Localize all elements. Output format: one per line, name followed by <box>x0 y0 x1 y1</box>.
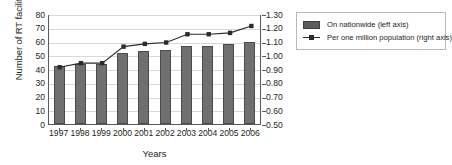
line-marker <box>121 44 125 48</box>
y-axis-right-ticks: 0.500.600.700.800.901.001.101.201.30 <box>266 15 298 125</box>
y-axis-right-tick-label: 0.80 <box>266 79 296 88</box>
line-marker-icon <box>303 34 320 42</box>
x-axis-ticks: 1997199819992000200120022003200420052006 <box>48 128 261 142</box>
y-axis-right-tickmark <box>262 29 266 30</box>
y-axis-left-tick-label: 60 <box>23 38 45 47</box>
y-axis-left-tick-label: 80 <box>23 11 45 20</box>
y-axis-right-tickmark <box>262 125 266 126</box>
x-axis-tickmark <box>123 128 124 131</box>
legend-label-line: Per one million population (right axis) <box>327 33 452 42</box>
x-axis-tickmark <box>80 128 81 131</box>
y-axis-right-tick-label: 0.90 <box>266 66 296 75</box>
y-axis-right-tick-label: 1.20 <box>266 24 296 33</box>
line-marker <box>249 24 253 28</box>
plot-area <box>48 15 261 125</box>
y-axis-left-tick-label: 30 <box>23 79 45 88</box>
y-axis-right-tick-label: 1.30 <box>266 11 296 20</box>
y-axis-right-tick-label: 0.60 <box>266 107 296 116</box>
x-axis-tickmark <box>229 128 230 131</box>
y-axis-right-tickmark <box>262 56 266 57</box>
y-axis-left-tick-label: 70 <box>23 24 45 33</box>
y-axis-right-tick-label: 0.50 <box>266 121 296 130</box>
x-axis-tickmark <box>165 128 166 131</box>
y-axis-right-tickmark <box>262 84 266 85</box>
line-marker <box>79 61 83 65</box>
y-axis-right-tick-label: 1.00 <box>266 52 296 61</box>
chart-figure: Number of RT facilities 0102030405060708… <box>0 0 452 165</box>
y-axis-right-tickmark <box>262 98 266 99</box>
chart-legend: On nationwide (left axis) Per one millio… <box>296 12 446 50</box>
line-marker <box>143 42 147 46</box>
x-axis-title: Years <box>48 148 261 159</box>
y-axis-left-ticks: 01020304050607080 <box>20 15 45 125</box>
x-axis-tickmark <box>101 128 102 131</box>
line-marker <box>164 40 168 44</box>
legend-label-bar: On nationwide (left axis) <box>327 20 408 29</box>
y-axis-left-tick-label: 40 <box>23 66 45 75</box>
y-axis-left-tick-label: 10 <box>23 107 45 116</box>
y-axis-right-tick-label: 0.70 <box>266 93 296 102</box>
line-marker <box>185 32 189 36</box>
y-axis-left-tick-label: 0 <box>23 121 45 130</box>
line-marker <box>100 61 104 65</box>
y-axis-left-tick-label: 50 <box>23 52 45 61</box>
y-axis-right-tickmark <box>262 70 266 71</box>
line-series <box>49 15 262 125</box>
y-axis-right-tick-label: 1.10 <box>266 38 296 47</box>
x-axis-tickmark <box>144 128 145 131</box>
y-axis-right-tickmark <box>262 15 266 16</box>
legend-item-line: Per one million population (right axis) <box>303 31 440 44</box>
line-marker <box>57 65 61 69</box>
line-marker <box>228 31 232 35</box>
y-axis-right-tickmark <box>262 43 266 44</box>
y-axis-left-tick-label: 20 <box>23 93 45 102</box>
x-axis-tickmark <box>59 128 60 131</box>
x-axis-tickmark <box>186 128 187 131</box>
line-path <box>60 26 252 67</box>
y-axis-right-tickmark <box>262 111 266 112</box>
bar-swatch-icon <box>303 21 320 29</box>
line-marker <box>207 32 211 36</box>
x-axis-tickmark <box>250 128 251 131</box>
x-axis-tickmark <box>208 128 209 131</box>
legend-item-bar: On nationwide (left axis) <box>303 18 440 31</box>
